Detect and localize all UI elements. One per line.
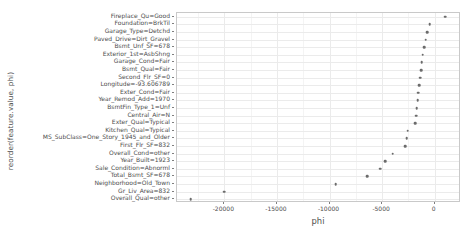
- x-axis-tick-mark: [223, 202, 224, 204]
- data-point: [428, 23, 431, 26]
- x-axis-ticks: -20000-15000-10000-50000: [176, 202, 460, 214]
- data-point: [415, 114, 418, 117]
- y-axis-tick-mark: [172, 160, 174, 161]
- y-axis-tick-mark: [172, 61, 174, 62]
- y-axis-tick-mark: [172, 99, 174, 100]
- gridline-horizontal: [177, 55, 459, 56]
- x-axis-tick-label: -20000: [213, 205, 234, 212]
- gridline-vertical-minor: [303, 13, 304, 201]
- y-axis-tick-mark: [172, 168, 174, 169]
- x-axis-tick-mark: [329, 202, 330, 204]
- y-axis-tick-mark: [172, 198, 174, 199]
- gridline-horizontal: [177, 161, 459, 162]
- data-point: [416, 107, 419, 110]
- y-axis-tick-mark: [172, 137, 174, 138]
- x-axis-tick-label: -10000: [318, 205, 339, 212]
- gridline-vertical-minor: [198, 13, 199, 201]
- gridline-horizontal: [177, 40, 459, 41]
- y-axis-title: reorder(feature.value, phi): [0, 0, 20, 242]
- data-point: [189, 198, 192, 201]
- chart-root: reorder(feature.value, phi) Fireplace_Qu…: [0, 0, 466, 242]
- gridline-horizontal: [177, 85, 459, 86]
- y-axis-tick-mark: [172, 39, 174, 40]
- gridline-horizontal: [177, 154, 459, 155]
- data-point: [379, 168, 382, 171]
- data-point: [384, 160, 387, 163]
- gridline-horizontal: [177, 176, 459, 177]
- data-point: [419, 76, 422, 79]
- gridline-vertical-minor: [408, 13, 409, 201]
- y-axis-tick-mark: [172, 145, 174, 146]
- data-point: [417, 92, 420, 95]
- data-point: [404, 145, 407, 148]
- gridline-horizontal: [177, 47, 459, 48]
- y-axis-tick-mark: [172, 16, 174, 17]
- y-axis-tick-mark: [172, 23, 174, 24]
- y-axis-tick-mark: [172, 175, 174, 176]
- data-point: [418, 84, 421, 87]
- gridline-vertical-major: [224, 13, 225, 201]
- x-axis-tick-mark: [276, 202, 277, 204]
- y-axis-tick-mark: [172, 183, 174, 184]
- gridline-horizontal: [177, 70, 459, 71]
- data-point: [444, 16, 447, 19]
- gridline-horizontal: [177, 123, 459, 124]
- gridline-horizontal: [177, 184, 459, 185]
- x-axis-tick-label: -5000: [372, 205, 389, 212]
- data-point: [421, 61, 424, 64]
- gridline-horizontal: [177, 62, 459, 63]
- y-axis-tick-mark: [172, 46, 174, 47]
- y-axis-tick-mark: [172, 31, 174, 32]
- gridline-vertical-major: [435, 13, 436, 201]
- y-axis-tick-mark: [172, 130, 174, 131]
- y-axis-tick-mark: [172, 191, 174, 192]
- gridline-horizontal: [177, 24, 459, 25]
- gridline-vertical-major: [382, 13, 383, 201]
- y-axis-tick-mark: [172, 69, 174, 70]
- data-point: [405, 137, 408, 140]
- data-point: [414, 122, 417, 125]
- gridline-vertical-minor: [356, 13, 357, 201]
- data-point: [391, 152, 394, 155]
- data-point: [426, 31, 429, 34]
- gridline-horizontal: [177, 32, 459, 33]
- gridline-horizontal: [177, 78, 459, 79]
- x-axis-title: phi: [176, 216, 460, 226]
- gridline-horizontal: [177, 131, 459, 132]
- data-point: [425, 38, 428, 41]
- y-axis-tick-mark: [172, 54, 174, 55]
- y-axis-tick-label: Overall_Qual=other: [111, 194, 170, 202]
- y-axis-tick-mark: [172, 107, 174, 108]
- x-axis-tick-mark: [434, 202, 435, 204]
- y-axis-tick-labels: Fireplace_Qu=GoodFoundation=BrkTilGarage…: [18, 12, 174, 202]
- gridline-horizontal: [177, 146, 459, 147]
- gridline-horizontal: [177, 169, 459, 170]
- data-point: [335, 183, 338, 186]
- gridline-horizontal: [177, 192, 459, 193]
- y-axis-tick-mark: [172, 153, 174, 154]
- y-axis-tick-mark: [172, 92, 174, 93]
- data-point: [423, 46, 426, 49]
- x-axis-tick-mark: [381, 202, 382, 204]
- data-point: [366, 175, 369, 178]
- gridline-vertical-minor: [251, 13, 252, 201]
- y-axis-tick-mark: [172, 122, 174, 123]
- y-axis-tick-mark: [172, 115, 174, 116]
- data-point: [416, 99, 419, 102]
- data-point: [406, 130, 409, 133]
- x-axis-tick-label: -15000: [265, 205, 286, 212]
- data-point: [420, 69, 423, 72]
- data-point: [422, 54, 425, 57]
- y-axis-tick-mark: [172, 77, 174, 78]
- data-point: [223, 190, 226, 193]
- gridline-horizontal: [177, 199, 459, 200]
- y-axis-tick-mark: [172, 84, 174, 85]
- gridline-vertical-major: [330, 13, 331, 201]
- x-axis-tick-label: 0: [432, 205, 436, 212]
- gridline-vertical-major: [277, 13, 278, 201]
- gridline-horizontal: [177, 138, 459, 139]
- plot-panel: [176, 12, 460, 202]
- gridline-horizontal: [177, 17, 459, 18]
